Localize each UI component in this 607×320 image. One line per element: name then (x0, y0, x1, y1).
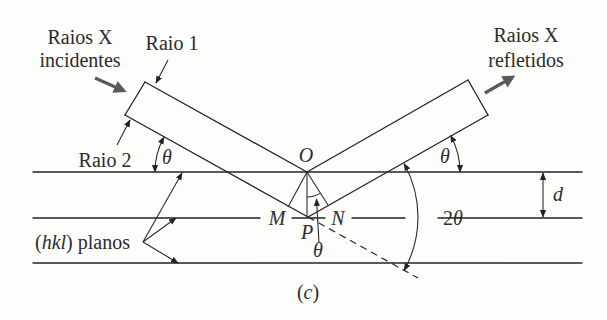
caption-letter: c (304, 281, 313, 303)
reflected-xrays-label-line2: refletidos (488, 49, 564, 71)
incident-xrays-label-line1: Raios X (48, 26, 114, 48)
planes-pointer-arrow-2 (143, 218, 176, 242)
ray2-label: Raio 2 (79, 149, 132, 171)
reflected-beam (307, 80, 488, 217)
theta-label-at-P: θ (313, 239, 323, 261)
ray1-label: Raio 1 (146, 32, 199, 54)
ray1-pointer-arrow (156, 60, 168, 83)
point-O-label: O (299, 144, 313, 166)
reflected-xrays-label-line1: Raios X (494, 24, 560, 46)
reflected-direction-arrow (485, 78, 511, 93)
line-OM (288, 172, 307, 207)
planes-pointer-arrow-1 (143, 173, 182, 242)
two-theta-arc (404, 164, 418, 271)
reflected-ray-2-edge (308, 115, 488, 217)
hkl-indices: hkl (42, 231, 67, 253)
theta-arc-at-O (307, 193, 320, 197)
point-N-label: N (330, 207, 346, 229)
hkl-planes-word: ) planos (66, 231, 130, 254)
figure-caption: (c) (297, 281, 319, 304)
incident-extension-dashed (308, 217, 418, 278)
point-M-label: M (268, 207, 287, 229)
hkl-planes-label: (hkl) planos (35, 231, 130, 254)
theta-label-left: θ (162, 146, 172, 168)
theta-leader-at-O (317, 199, 320, 243)
two-theta-label: 2θ (418, 207, 478, 229)
caption-close-paren: ) (312, 281, 319, 304)
incident-beam-end (125, 82, 145, 115)
reflected-beam-end (468, 80, 488, 115)
ray2-pointer-arrow (117, 120, 130, 145)
two-theta-number: 2 (443, 207, 453, 229)
incident-beam (125, 82, 308, 217)
line-ON (307, 172, 328, 205)
d-spacing-label: d (553, 183, 564, 205)
bragg-diffraction-diagram: Raios X incidentes Raios X refletidos Ra… (0, 0, 607, 320)
planes-pointer-arrow-3 (143, 242, 178, 263)
incident-ray-2-edge (125, 115, 308, 217)
incident-direction-arrow (95, 78, 122, 90)
theta-arc-right (451, 136, 460, 172)
theta-label-right: θ (440, 145, 450, 167)
point-P-label: P (300, 221, 313, 243)
incident-xrays-label-line2: incidentes (39, 49, 120, 71)
two-theta-symbol: θ (453, 207, 463, 229)
